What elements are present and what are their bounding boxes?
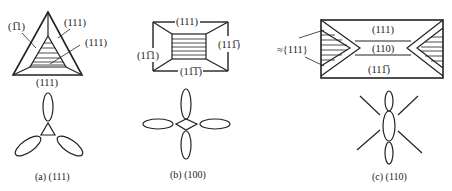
label-b-left: (11̅1)	[137, 50, 159, 62]
lobe-right	[200, 119, 230, 129]
label-a-inner-right: (111)	[85, 37, 107, 49]
panel-c: ≈{111} (111) (110) (111̅) (c) (110)	[277, 20, 443, 183]
label-c-note: ≈{111}	[277, 44, 308, 55]
center-diamond	[176, 119, 197, 130]
label-a-left: (1̅1)	[8, 21, 26, 33]
lobe-left	[143, 119, 173, 129]
lobe-top	[385, 91, 393, 111]
lobe-bottom	[181, 131, 191, 159]
label-b-bottom: (11̅1̅)	[180, 66, 202, 78]
label-a-top-right: (111)	[64, 17, 86, 29]
lobe-bottom	[385, 142, 393, 164]
hatching-right	[421, 37, 443, 61]
caption-c: (c) (110)	[372, 171, 407, 183]
center-triangle	[41, 123, 55, 135]
label-c-top: (111)	[372, 24, 394, 36]
hatching	[31, 43, 65, 65]
panel-b: (111) (111̅) (11̅1) (11̅1̅) (b) (100)	[137, 16, 240, 181]
label-b-right: (111̅)	[218, 39, 240, 51]
lobe-left	[12, 132, 43, 159]
lobe-right	[54, 132, 85, 159]
label-c-bottom: (111̅)	[368, 64, 390, 76]
lobe-center	[383, 111, 395, 141]
crystal-facet-diagram: (1̅1) (111) (111) (111) (a) (111)	[0, 0, 452, 191]
hatching	[172, 39, 206, 55]
label-b-top: (111)	[176, 16, 198, 28]
caption-b: (b) (100)	[170, 169, 206, 181]
label-c-middle: (110)	[372, 43, 395, 55]
caption-a: (a) (111)	[35, 171, 70, 183]
panel-a: (1̅1) (111) (111) (111) (a) (111)	[8, 12, 107, 183]
label-a-bottom: (111)	[36, 77, 58, 89]
lobe-top	[181, 89, 191, 119]
lobe-top	[43, 93, 53, 121]
